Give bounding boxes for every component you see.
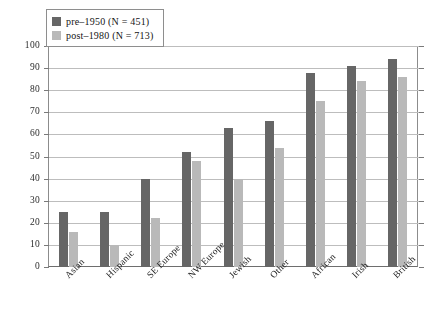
x-axis-tick-label: Hispanic [104, 248, 136, 280]
x-axis-tick-label: Jewish [227, 254, 253, 280]
legend-item-post-1980: post–1980 (N = 713) [52, 28, 158, 42]
legend-item-pre-1950: pre–1950 (N = 451) [52, 14, 158, 28]
x-axis-tick-label: British [391, 254, 417, 280]
pre-1950-swatch-icon [52, 17, 61, 26]
post-1980-swatch-icon [52, 31, 61, 40]
legend-label-pre-1950: pre–1950 (N = 451) [66, 16, 149, 27]
x-axis-tick-label: SE Europe [145, 243, 182, 280]
x-axis-tick-label: Other [268, 257, 291, 280]
x-axis-tick-label: Irish [350, 260, 370, 280]
legend-label-post-1980: post–1980 (N = 713) [66, 30, 154, 41]
x-axis-tick-label: African [309, 251, 338, 280]
chart-legend: pre–1950 (N = 451) post–1980 (N = 713) [46, 9, 164, 47]
x-axis-labels: AsianHispanicSE EuropeNW EuropeJewishOth… [0, 0, 434, 324]
x-axis-tick-label: Asian [63, 257, 86, 280]
x-axis-tick-label: NW Europe [186, 240, 226, 280]
bar-chart: 0102030405060708090100 AsianHispanicSE E… [0, 0, 434, 324]
